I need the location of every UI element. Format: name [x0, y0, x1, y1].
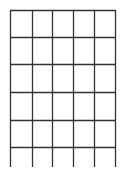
horizontal-lines — [10, 11, 116, 148]
vertical-lines — [11, 10, 116, 167]
grid-diagram — [0, 0, 128, 179]
